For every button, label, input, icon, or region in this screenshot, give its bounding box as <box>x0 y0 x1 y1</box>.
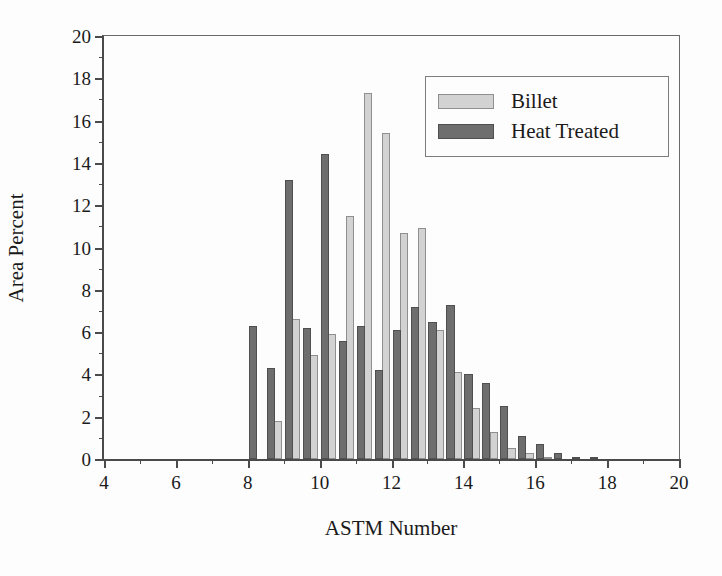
y-tick-label: 12 <box>72 196 91 215</box>
y-tick-label: 8 <box>82 280 92 299</box>
x-tick-minor <box>571 459 572 464</box>
legend-item-heat-treated: Heat Treated <box>438 116 656 146</box>
y-tick-minor <box>99 226 104 227</box>
chart-legend: Billet Heat Treated <box>425 76 669 157</box>
y-tick-label: 16 <box>72 111 91 130</box>
bar-heat-treated <box>339 341 347 459</box>
legend-swatch-heat-treated <box>438 124 494 139</box>
bar-billet <box>490 432 498 459</box>
bar-billet <box>400 233 408 459</box>
bar-billet <box>292 319 300 459</box>
x-tick <box>463 459 465 468</box>
x-tick-minor <box>499 459 500 464</box>
x-tick-label: 20 <box>670 473 689 492</box>
bar-billet <box>472 408 480 459</box>
x-tick <box>104 459 106 468</box>
y-tick <box>95 417 104 419</box>
bar-billet <box>328 334 336 459</box>
y-tick-minor <box>99 142 104 143</box>
bar-billet <box>418 228 426 459</box>
bar-billet <box>507 448 515 459</box>
y-tick-label: 18 <box>72 69 91 88</box>
bar-heat-treated <box>267 368 275 459</box>
y-tick-minor <box>99 269 104 270</box>
bar-heat-treated <box>446 305 454 459</box>
bar-heat-treated <box>572 457 580 459</box>
legend-swatch-billet <box>438 94 494 109</box>
x-tick-label: 6 <box>171 473 181 492</box>
y-tick <box>95 332 104 334</box>
y-tick <box>95 78 104 80</box>
x-tick-minor <box>643 459 644 464</box>
y-tick-label: 4 <box>82 365 92 384</box>
x-tick-minor <box>284 459 285 464</box>
y-tick <box>95 374 104 376</box>
bar-heat-treated <box>500 406 508 459</box>
x-tick <box>176 459 178 468</box>
x-tick <box>320 459 322 468</box>
y-tick-minor <box>99 99 104 100</box>
x-tick-label: 16 <box>526 473 545 492</box>
y-tick <box>95 205 104 207</box>
x-tick-minor <box>427 459 428 464</box>
y-tick-minor <box>99 184 104 185</box>
x-tick-minor <box>356 459 357 464</box>
bar-heat-treated <box>285 180 293 459</box>
x-tick-label: 12 <box>382 473 401 492</box>
bar-billet <box>310 355 318 459</box>
bar-heat-treated <box>249 326 257 459</box>
y-tick-minor <box>99 438 104 439</box>
y-tick-minor <box>99 311 104 312</box>
x-tick-minor <box>140 459 141 464</box>
bar-heat-treated <box>590 457 598 459</box>
bar-billet <box>382 133 390 459</box>
bar-heat-treated <box>393 330 401 459</box>
bar-heat-treated <box>303 328 311 459</box>
legend-label-billet: Billet <box>511 91 558 112</box>
x-tick <box>392 459 394 468</box>
y-tick <box>95 248 104 250</box>
bar-billet <box>543 457 551 459</box>
bar-billet <box>525 453 533 459</box>
bar-heat-treated <box>375 370 383 459</box>
legend-item-billet: Billet <box>438 86 656 116</box>
y-tick-minor <box>99 396 104 397</box>
x-tick <box>248 459 250 468</box>
x-axis-title: ASTM Number <box>102 516 680 541</box>
bar-billet <box>274 421 282 459</box>
bar-heat-treated <box>518 436 526 459</box>
y-tick <box>95 163 104 165</box>
figure-root: 02468101214161820 468101214161820 Area P… <box>0 0 722 576</box>
y-tick-minor <box>99 57 104 58</box>
y-tick-label: 20 <box>72 27 91 46</box>
y-tick <box>95 459 104 461</box>
y-tick-label: 10 <box>72 238 91 257</box>
bar-heat-treated <box>482 383 490 459</box>
y-tick-label: 14 <box>72 153 91 172</box>
bar-billet <box>436 330 444 459</box>
x-tick <box>535 459 537 468</box>
y-tick-label: 6 <box>82 323 92 342</box>
y-tick <box>95 36 104 38</box>
y-tick <box>95 121 104 123</box>
bar-heat-treated <box>411 307 419 459</box>
bar-heat-treated <box>428 322 436 459</box>
bar-heat-treated <box>464 374 472 459</box>
bar-heat-treated <box>554 453 562 459</box>
bar-heat-treated <box>321 154 329 459</box>
y-tick-label: 0 <box>82 450 92 469</box>
x-tick-label: 4 <box>99 473 109 492</box>
x-tick-label: 18 <box>598 473 617 492</box>
y-tick <box>95 290 104 292</box>
bar-billet <box>364 93 372 459</box>
x-tick <box>607 459 609 468</box>
bar-heat-treated <box>536 444 544 459</box>
x-tick-label: 8 <box>243 473 253 492</box>
legend-label-heat-treated: Heat Treated <box>511 121 619 142</box>
y-axis-title: Area Percent <box>4 193 29 302</box>
x-tick-label: 14 <box>454 473 473 492</box>
bar-billet <box>454 372 462 459</box>
bar-billet <box>346 216 354 459</box>
x-tick-label: 10 <box>310 473 329 492</box>
y-tick-label: 2 <box>82 407 92 426</box>
